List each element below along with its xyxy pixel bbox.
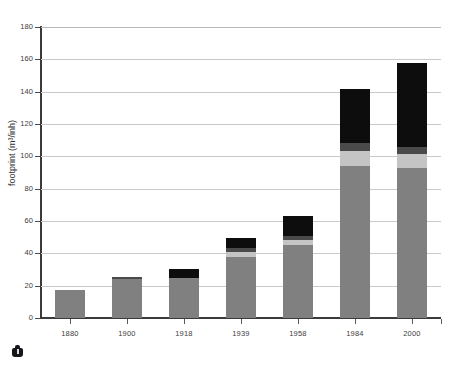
y-tick-label-180: 180 bbox=[7, 22, 33, 31]
y-tick-label-140: 140 bbox=[7, 87, 33, 96]
bar-1918 bbox=[169, 27, 199, 318]
bar-segment-1939-segment-3-dark-gray bbox=[226, 248, 256, 251]
bar-segment-1984-segment-4-black bbox=[340, 89, 370, 143]
bar-segment-2000-segment-4-black bbox=[397, 63, 427, 146]
x-tick-label-1958: 1958 bbox=[268, 329, 328, 338]
publisher-logo-icon bbox=[12, 345, 25, 358]
x-tick-mark-1958 bbox=[298, 319, 299, 324]
bar-segment-1958-segment-2-light-gray bbox=[283, 240, 313, 246]
x-tick-mark-1918 bbox=[184, 319, 185, 324]
bar-segment-1984-segment-3-dark-gray bbox=[340, 143, 370, 150]
bar-segment-1958-segment-4-black bbox=[283, 216, 313, 236]
y-axis-ticks: 020406080100120140160180 bbox=[0, 0, 33, 365]
bar-segment-1900-segment-3-dark-gray bbox=[112, 277, 142, 279]
y-tick-label-0: 0 bbox=[7, 313, 33, 322]
bar-segment-1880-segment-1-base-gray bbox=[55, 290, 85, 318]
bar-segment-1939-segment-1-base-gray bbox=[226, 257, 256, 318]
bar-segment-1918-segment-4-black bbox=[169, 269, 199, 278]
x-tick-mark-1984 bbox=[355, 319, 356, 324]
x-tick-label-1984: 1984 bbox=[325, 329, 385, 338]
bar-1939 bbox=[226, 27, 256, 318]
y-tick-label-80: 80 bbox=[7, 184, 33, 193]
x-tick-mark-1900 bbox=[127, 319, 128, 324]
bar-segment-2000-segment-2-light-gray bbox=[397, 154, 427, 168]
x-tick-mark-2000 bbox=[412, 319, 413, 324]
logo-notch-shape bbox=[17, 349, 19, 354]
bar-segment-2000-segment-3-dark-gray bbox=[397, 147, 427, 154]
bar-segment-1958-segment-3-dark-gray bbox=[283, 236, 313, 239]
bar-segment-2000-segment-1-base-gray bbox=[397, 168, 427, 318]
bar-segment-1984-segment-1-base-gray bbox=[340, 166, 370, 318]
x-tick-label-1900: 1900 bbox=[97, 329, 157, 338]
x-tick-mark-1939 bbox=[241, 319, 242, 324]
bar-1880 bbox=[55, 27, 85, 318]
y-tick-label-120: 120 bbox=[7, 119, 33, 128]
bar-1984 bbox=[340, 27, 370, 318]
x-tick-mark-end bbox=[441, 319, 442, 324]
y-tick-label-60: 60 bbox=[7, 216, 33, 225]
bar-1958 bbox=[283, 27, 313, 318]
bar-segment-1900-segment-1-base-gray bbox=[112, 279, 142, 318]
bar-1900 bbox=[112, 27, 142, 318]
chart-figure: footprint (m³/inh) 020406080100120140160… bbox=[0, 0, 451, 365]
bar-2000 bbox=[397, 27, 427, 318]
y-tick-label-100: 100 bbox=[7, 151, 33, 160]
x-tick-mark-1880 bbox=[70, 319, 71, 324]
x-tick-label-1880: 1880 bbox=[40, 329, 100, 338]
y-tick-label-160: 160 bbox=[7, 54, 33, 63]
x-tick-label-1939: 1939 bbox=[211, 329, 271, 338]
bar-segment-1984-segment-2-light-gray bbox=[340, 151, 370, 166]
x-tick-label-1918: 1918 bbox=[154, 329, 214, 338]
bar-segment-1939-segment-2-light-gray bbox=[226, 252, 256, 257]
bar-segment-1918-segment-1-base-gray bbox=[169, 278, 199, 318]
x-tick-label-2000: 2000 bbox=[382, 329, 442, 338]
y-tick-label-40: 40 bbox=[7, 248, 33, 257]
bar-segment-1958-segment-1-base-gray bbox=[283, 245, 313, 318]
bar-segment-1939-segment-4-black bbox=[226, 238, 256, 249]
y-tick-label-20: 20 bbox=[7, 281, 33, 290]
plot-area bbox=[41, 27, 441, 318]
